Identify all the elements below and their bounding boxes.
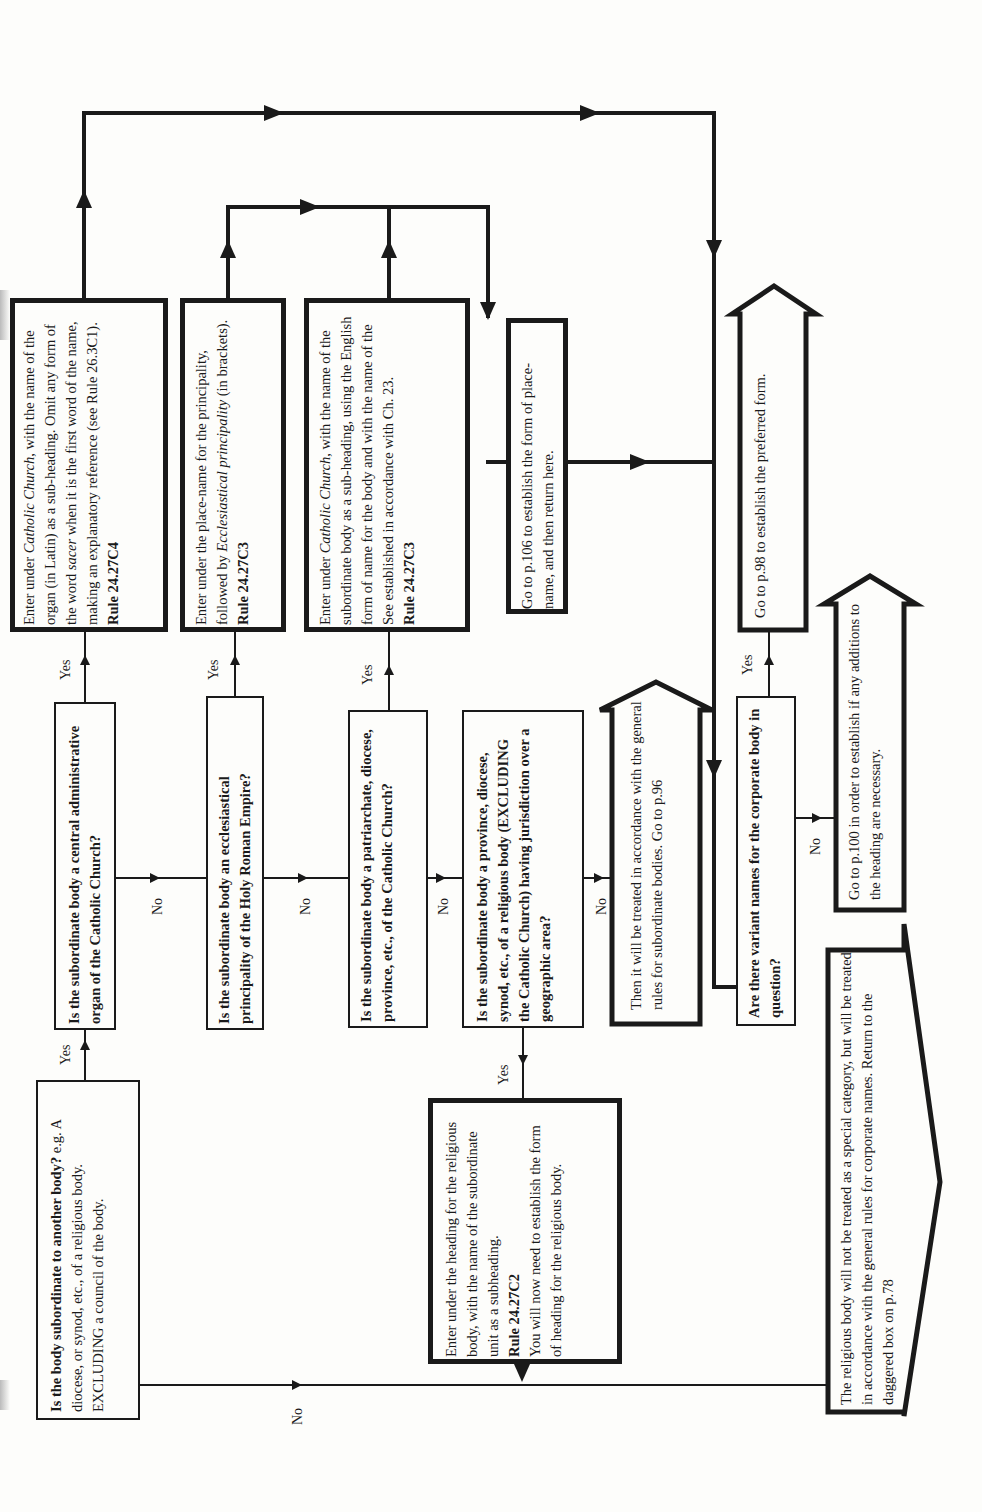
arrow-right-icon xyxy=(630,454,650,470)
arrow-up-icon xyxy=(76,190,92,208)
no-label: No xyxy=(290,1408,306,1425)
exit-text: Go to p.98 to establish the preferred fo… xyxy=(750,298,771,618)
rule-reference: Rule 24.27C3 xyxy=(401,542,417,625)
arrow-right-icon xyxy=(264,105,284,121)
arrow-up-icon xyxy=(384,665,394,675)
no-label: No xyxy=(150,898,166,915)
yes-label: Yes xyxy=(496,1065,512,1085)
scan-shadow xyxy=(0,1380,10,1410)
connector-line xyxy=(428,877,464,879)
connector-line xyxy=(226,205,490,209)
arrow-up-icon xyxy=(80,1040,90,1050)
scan-shadow xyxy=(0,290,10,340)
arrow-up-icon xyxy=(80,655,90,665)
arrow-down-icon xyxy=(706,240,722,258)
question-text: Is the subordinate body a province, dioc… xyxy=(472,722,556,1022)
connector-line xyxy=(84,632,86,702)
action-box-a5: Enter under the heading for the religiou… xyxy=(428,1098,622,1364)
yes-label: Yes xyxy=(206,660,222,680)
question-box-q5: Is the subordinate body a province, dioc… xyxy=(462,710,584,1028)
exit-text: The religious body will not be treated a… xyxy=(836,945,899,1405)
arrow-right-icon xyxy=(150,873,160,883)
exit-arrow-e2 xyxy=(734,284,814,634)
rule-reference: Rule 24.27C2 xyxy=(506,1274,522,1357)
question-box-q2: Is the subordinate body a central admini… xyxy=(54,702,116,1030)
no-label: No xyxy=(436,898,452,915)
action-box-a2: Enter under the place-name for the princ… xyxy=(180,298,286,632)
question-text: Are there variant names for the corporat… xyxy=(744,708,786,1018)
arrow-right-icon xyxy=(298,873,308,883)
connector-line xyxy=(82,111,716,115)
yes-label: Yes xyxy=(740,655,756,675)
arrow-right-icon xyxy=(292,1380,302,1390)
action-box-a3: Enter under Catholic Church, with the na… xyxy=(304,298,470,632)
action-box-a1: Enter under Catholic Church, with the na… xyxy=(10,298,168,632)
no-label: No xyxy=(298,898,314,915)
arrow-right-icon xyxy=(436,873,446,883)
arrow-right-icon xyxy=(300,199,320,215)
rule-reference: Rule 24.27C3 xyxy=(235,542,251,625)
arrow-down-icon xyxy=(514,1364,530,1382)
question-box-q4: Is the subordinate body a patriarchate, … xyxy=(348,710,428,1028)
connector-line xyxy=(84,1030,86,1082)
arrow-down-icon xyxy=(480,302,496,320)
arrow-up-icon xyxy=(220,240,236,258)
question-text: Is the subordinate body an ecclesiastica… xyxy=(214,706,256,1024)
yes-label: Yes xyxy=(58,1045,74,1065)
question-box-q6: Are there variant names for the corporat… xyxy=(736,696,796,1026)
yes-label: Yes xyxy=(58,660,74,680)
question-text: Is the subordinate body a patriarchate, … xyxy=(356,722,398,1022)
arrow-up-icon xyxy=(230,655,240,665)
arrow-down-icon xyxy=(518,1055,528,1065)
question-box-q3: Is the subordinate body an ecclesiastica… xyxy=(206,696,264,1030)
rule-reference: Rule 24.27C4 xyxy=(105,542,121,625)
question-box-q1: Is the body subordinate to another body?… xyxy=(36,1080,140,1420)
action-box-a4: Go to p.106 to establish the form of pla… xyxy=(506,318,568,614)
yes-label: Yes xyxy=(360,665,376,685)
question-text: Is the body subordinate to another body? xyxy=(48,1157,64,1412)
connector-line xyxy=(140,1384,830,1386)
arrow-up-icon xyxy=(381,240,397,258)
exit-text: Then it will be treated in accordance wi… xyxy=(626,690,668,1010)
connector-line xyxy=(116,877,210,879)
exit-text: Go to p.100 in order to establish if any… xyxy=(844,590,886,900)
question-text: Is the subordinate body a central admini… xyxy=(64,714,106,1024)
arrow-up-icon xyxy=(764,655,774,665)
action-text: Go to p.106 to establish the form of pla… xyxy=(517,329,559,609)
arrow-right-icon xyxy=(580,105,600,121)
